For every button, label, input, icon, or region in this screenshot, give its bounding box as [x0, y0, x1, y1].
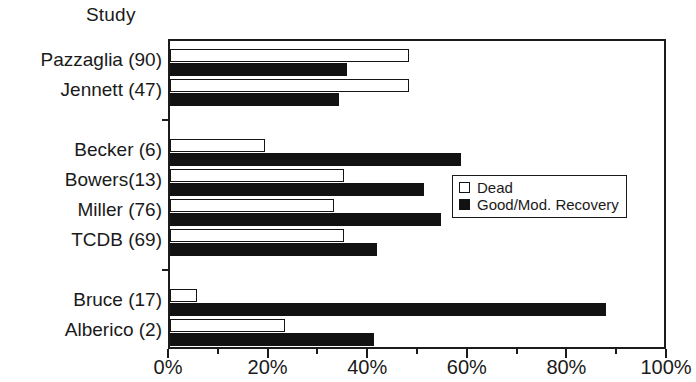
bar-dead: [170, 319, 285, 332]
open-square-icon: [459, 182, 470, 193]
category-label: Pazzaglia (90): [41, 50, 162, 69]
bar-good-mod-recovery: [170, 183, 424, 196]
bar-dead: [170, 169, 344, 182]
bar-good-mod-recovery: [170, 93, 339, 106]
group-separator-tick: [162, 269, 169, 271]
filled-square-icon: [459, 199, 470, 210]
category-label: Miller (76): [78, 200, 162, 219]
legend-label-dead: Dead: [477, 180, 513, 195]
category-label: Jennett (47): [61, 80, 162, 99]
bar-good-mod-recovery: [170, 243, 377, 256]
x-tick-label: 0%: [154, 356, 183, 378]
bar-dead: [170, 49, 409, 62]
chart-legend: Dead Good/Mod. Recovery: [452, 175, 627, 218]
x-tick-minor: [316, 349, 318, 354]
legend-item-dead: Dead: [459, 179, 619, 196]
x-tick-minor: [416, 349, 418, 354]
group-separator-tick: [162, 119, 169, 121]
category-axis-title: Study: [86, 4, 136, 26]
bar-good-mod-recovery: [170, 333, 374, 346]
x-tick-label: 40%: [347, 356, 387, 378]
category-label: Bruce (17): [73, 290, 162, 309]
bar-dead: [170, 289, 197, 302]
category-label: Bowers(13): [65, 170, 162, 189]
bar-dead: [170, 229, 344, 242]
x-tick-minor: [615, 349, 617, 354]
bar-dead: [170, 139, 265, 152]
x-tick-label: 60%: [447, 356, 487, 378]
legend-label-recovery: Good/Mod. Recovery: [477, 197, 619, 212]
x-tick-label: 80%: [546, 356, 586, 378]
category-label: TCDB (69): [71, 230, 162, 249]
category-label: Becker (6): [74, 140, 162, 159]
bar-chart: Study Pazzaglia (90)Jennett (47)Becker (…: [0, 0, 696, 382]
bar-dead: [170, 199, 334, 212]
bar-good-mod-recovery: [170, 303, 606, 316]
bar-good-mod-recovery: [170, 213, 441, 226]
x-tick-label: 20%: [248, 356, 288, 378]
bar-dead: [170, 79, 409, 92]
x-tick-minor: [516, 349, 518, 354]
bar-good-mod-recovery: [170, 63, 347, 76]
bar-good-mod-recovery: [170, 153, 461, 166]
category-label: Alberico (2): [65, 320, 162, 339]
legend-item-recovery: Good/Mod. Recovery: [459, 196, 619, 213]
x-tick-label: 100%: [640, 356, 691, 378]
x-tick-minor: [217, 349, 219, 354]
